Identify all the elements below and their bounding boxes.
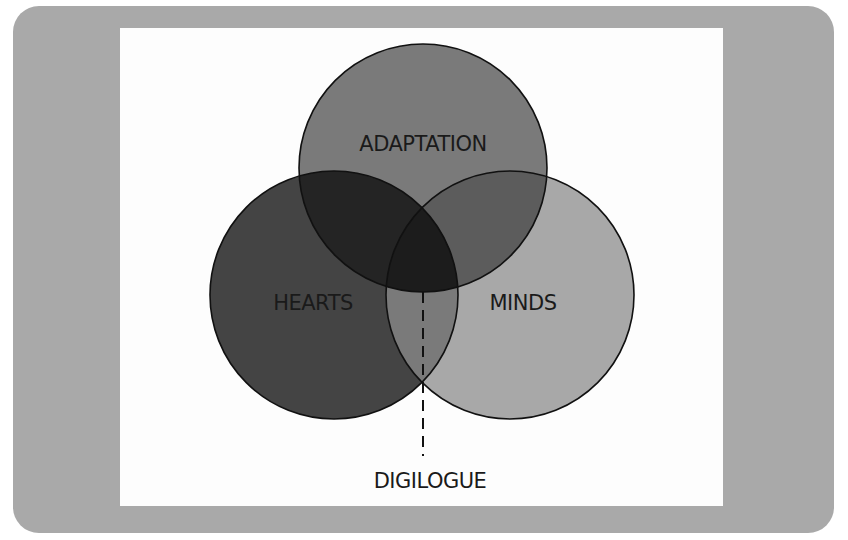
venn-diagram: ADAPTATION HEARTS MINDS DIGILOGUE [0,0,848,540]
label-minds: MINDS [489,291,556,315]
label-digilogue: DIGILOGUE [374,469,487,493]
label-adaptation: ADAPTATION [359,132,486,156]
label-hearts: HEARTS [273,291,353,315]
